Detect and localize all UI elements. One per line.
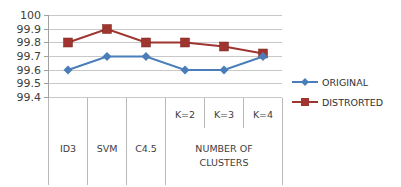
legend-label-original: ORIGINAL [322, 77, 369, 88]
y-tick-labels: 100 99.9 99.8 99.7 99.6 99.5 99.4 [17, 9, 42, 104]
x-label-k2: K=2 [175, 109, 195, 120]
x-group-label-line1: NUMBER OF [195, 143, 252, 154]
legend-label-distorted: DISTRORTED [322, 97, 383, 108]
legend: ORIGINAL DISTRORTED [292, 77, 383, 108]
y-tick: 99.4 [17, 91, 42, 104]
x-label-svm: SVM [97, 143, 118, 154]
y-tick: 99.8 [17, 36, 42, 49]
gridlines [48, 16, 282, 98]
category-dividers [49, 98, 283, 185]
diamond-icon [301, 78, 309, 86]
y-tick: 99.7 [17, 50, 42, 63]
y-tick-marks [44, 16, 48, 98]
x-label-k3: K=3 [214, 109, 234, 120]
x-group-label-line2: CLUSTERS [200, 157, 249, 168]
line-chart: 100 99.9 99.8 99.7 99.6 99.5 99.4 K=2 K=… [0, 0, 401, 187]
y-tick: 99.9 [17, 23, 42, 36]
x-label-c45: C4.5 [135, 143, 157, 154]
x-label-id3: ID3 [60, 143, 76, 154]
y-tick: 99.5 [17, 77, 42, 90]
y-tick: 99.6 [17, 64, 42, 77]
y-tick: 100 [20, 9, 41, 22]
x-category-labels: K=2 K=3 K=4 ID3 SVM C4.5 NUMBER OF CLUST… [60, 109, 273, 168]
legend-item-original: ORIGINAL [292, 77, 369, 88]
legend-item-distorted: DISTRORTED [292, 97, 383, 108]
series-original [64, 52, 268, 75]
x-label-k4: K=4 [253, 109, 273, 120]
square-icon [301, 98, 309, 106]
